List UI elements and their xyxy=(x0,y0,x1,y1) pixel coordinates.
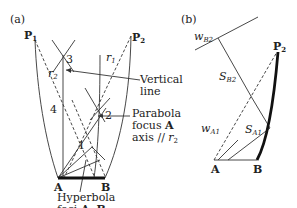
region-3-label: 3 xyxy=(66,54,73,66)
point-b-b-label: B xyxy=(253,164,262,176)
point-a-b-label: A xyxy=(211,164,220,176)
dashed-ray-r2 xyxy=(35,40,95,178)
region-2-label: 2 xyxy=(105,110,112,122)
symbol-SB2: SB2 xyxy=(219,71,236,86)
dashed-ray-r1 xyxy=(64,36,131,178)
point-p1-label: P1 xyxy=(24,30,37,45)
hyperbola-foci-label: Hyperbola foci A, B xyxy=(57,180,115,204)
line-1-to-b xyxy=(92,147,105,160)
line-SB2 xyxy=(218,38,252,98)
diagram-lines xyxy=(0,0,297,208)
inner-curve-right xyxy=(94,55,100,178)
ray-r2-label: r2 xyxy=(48,68,58,83)
region-1-label: 1 xyxy=(78,140,85,152)
symbol-wB2: wB2 xyxy=(194,31,213,46)
region-4-label: 4 xyxy=(50,104,57,116)
point-p2-label: P2 xyxy=(132,32,145,47)
parabola-annotation: Parabola focus A axis // r2 xyxy=(132,108,181,147)
point-p2-b-label: P2 xyxy=(273,41,286,56)
dashed-a-to-p2 xyxy=(214,52,277,160)
ray-r1-label: r1 xyxy=(106,52,116,67)
panel-b-label: (b) xyxy=(181,14,197,26)
symbol-SA1: SA1 xyxy=(245,124,262,139)
line-wA1 xyxy=(218,140,238,160)
panel-a-label: (a) xyxy=(10,14,25,26)
vertical-line-annotation: Vertical line xyxy=(140,74,183,98)
figure: (a) P1 P2 r1 r2 3 4 2 1 A B Vertical lin… xyxy=(0,0,297,208)
symbol-wA1: wA1 xyxy=(201,123,220,138)
